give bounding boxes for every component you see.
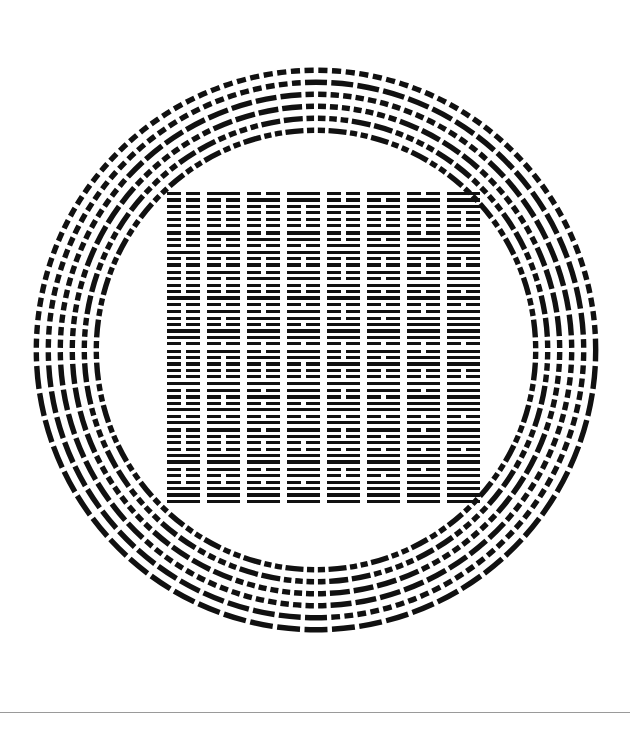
inner-square-grid: [167, 192, 480, 503]
hexagram-cell: [287, 389, 320, 424]
hexagram-cell: [327, 389, 360, 424]
hexagram-cell: [367, 428, 400, 463]
hexagram-cell: [207, 192, 240, 227]
ring-hexagram: [34, 362, 101, 389]
ring-hexagram: [463, 497, 524, 558]
bottom-divider: [0, 712, 630, 713]
ring-hexagram: [34, 338, 100, 361]
hexagram-cell: [167, 192, 200, 227]
ring-hexagram: [304, 68, 327, 134]
hexagram-cell: [207, 310, 240, 345]
hexagram-cell: [407, 389, 440, 424]
hexagram-cell: [287, 468, 320, 503]
hexagram-cell: [247, 192, 280, 227]
ring-hexagram: [531, 362, 598, 389]
hexagram-cell: [327, 350, 360, 385]
hexagram-cell: [287, 428, 320, 463]
hexagram-cell: [247, 271, 280, 306]
hexagram-cell: [367, 271, 400, 306]
hexagram-cell: [407, 350, 440, 385]
ring-hexagram: [328, 565, 355, 632]
hexagram-cell: [247, 428, 280, 463]
hexagram-cell: [407, 231, 440, 266]
ring-hexagram: [277, 565, 304, 632]
hexagram-cell: [207, 231, 240, 266]
ring-hexagram: [34, 311, 101, 338]
hexagram-cell: [327, 231, 360, 266]
hexagram-cell: [447, 231, 480, 266]
hexagram-cell: [167, 350, 200, 385]
ring-hexagram: [533, 338, 599, 361]
hexagram-cell: [247, 468, 280, 503]
hexagram-cell: [447, 310, 480, 345]
hexagram-cell: [167, 231, 200, 266]
ring-hexagram: [328, 68, 355, 135]
ring-hexagram: [277, 68, 304, 135]
hexagram-cell: [447, 468, 480, 503]
hexagram-cell: [167, 310, 200, 345]
hexagram-cell: [327, 271, 360, 306]
hexagram-cell: [407, 468, 440, 503]
hexagram-cell: [407, 428, 440, 463]
hexagram-cell: [167, 271, 200, 306]
ring-hexagram: [108, 497, 169, 558]
hexagram-cell: [327, 192, 360, 227]
hexagram-cell: [367, 192, 400, 227]
hexagram-cell: [367, 350, 400, 385]
hexagram-cell: [447, 428, 480, 463]
hexagram-cell: [167, 468, 200, 503]
hexagram-cell: [447, 350, 480, 385]
hexagram-cell: [207, 428, 240, 463]
hexagram-cell: [367, 389, 400, 424]
hexagram-cell: [367, 231, 400, 266]
hexagram-cell: [407, 310, 440, 345]
hexagram-cell: [367, 468, 400, 503]
hexagram-cell: [327, 428, 360, 463]
hexagram-cell: [247, 350, 280, 385]
ring-hexagram: [304, 567, 327, 633]
hexagram-cell: [367, 310, 400, 345]
hexagram-cell: [207, 389, 240, 424]
hexagram-cell: [247, 389, 280, 424]
figure-page: [0, 0, 630, 737]
hexagram-cell: [207, 350, 240, 385]
ring-hexagram: [108, 142, 169, 203]
hexagram-cell: [247, 231, 280, 266]
hexagram-cell: [207, 271, 240, 306]
hexagram-cell: [247, 310, 280, 345]
hexagram-diagram: [0, 0, 630, 737]
hexagram-cell: [167, 389, 200, 424]
hexagram-cell: [287, 271, 320, 306]
hexagram-cell: [447, 389, 480, 424]
hexagram-cell: [327, 310, 360, 345]
hexagram-cell: [287, 231, 320, 266]
hexagram-cell: [407, 192, 440, 227]
hexagram-cell: [447, 271, 480, 306]
hexagram-cell: [407, 271, 440, 306]
hexagram-cell: [167, 428, 200, 463]
hexagram-cell: [207, 468, 240, 503]
hexagram-cell: [287, 350, 320, 385]
hexagram-cell: [327, 468, 360, 503]
ring-hexagram: [531, 311, 598, 338]
hexagram-cell: [287, 310, 320, 345]
hexagram-cell: [287, 192, 320, 227]
